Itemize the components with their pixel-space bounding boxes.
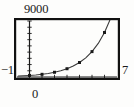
data-point: [28, 74, 31, 77]
x-axis-max-label: 7: [122, 64, 128, 76]
data-point: [91, 50, 94, 53]
data-point: [66, 67, 69, 70]
y-axis-max-label: 9000: [24, 3, 48, 15]
data-point: [78, 61, 81, 64]
exponential-growth-chart: 9000 −1 7 0: [0, 0, 134, 107]
data-point: [53, 71, 56, 74]
data-point: [41, 73, 44, 76]
x-axis-min-label: −1: [1, 64, 14, 76]
data-point: [103, 31, 106, 34]
x-axis-origin-label: 0: [32, 88, 38, 100]
plot-area: [14, 18, 120, 80]
